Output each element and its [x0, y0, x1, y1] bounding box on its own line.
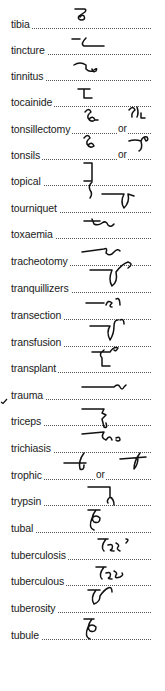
shorthand-outline — [84, 293, 124, 315]
entry-term: tubule — [11, 629, 41, 641]
shorthand-stroke — [90, 262, 131, 286]
shorthand-outline — [82, 216, 116, 232]
dictionary-entry: trypsin — [11, 489, 151, 509]
shorthand-stroke — [129, 137, 148, 151]
shorthand-outline — [94, 563, 132, 583]
margin-check-icon — [0, 396, 8, 404]
entry-term: tonsillectomy — [11, 123, 72, 135]
entry-term: tourniquet — [11, 202, 59, 214]
entry-term: toxaemia — [11, 228, 55, 240]
shorthand-outline — [86, 506, 110, 534]
entry-term: tranquillizers — [11, 282, 71, 294]
shorthand-stroke — [82, 385, 126, 389]
shorthand-stroke — [98, 539, 128, 551]
entry-term: trophic — [11, 469, 44, 481]
shorthand-stroke — [84, 619, 96, 639]
dictionary-entry: tincture — [11, 38, 151, 58]
shorthand-stroke — [84, 163, 92, 181]
shorthand-stroke — [88, 588, 112, 605]
shorthand-stroke — [96, 567, 123, 579]
entry-term: tocainide — [11, 96, 54, 108]
dictionary-entry: tinnitus — [11, 64, 151, 84]
dictionary-entry: transection — [11, 303, 151, 323]
shorthand-outline — [90, 344, 124, 372]
shorthand-outline — [88, 260, 136, 292]
entry-term: trypsin — [11, 495, 43, 507]
shorthand-outline — [83, 107, 101, 129]
entry-term: triceps — [11, 415, 43, 427]
shorthand-stroke — [82, 432, 120, 441]
dictionary-entry: trophicor — [11, 463, 151, 483]
shorthand-outline — [80, 243, 122, 259]
entry-term: trauma — [11, 389, 45, 401]
shorthand-stroke — [84, 219, 114, 226]
dictionary-entry: tubule — [11, 623, 151, 643]
entry-term: trichiasis — [11, 442, 53, 454]
shorthand-stroke — [88, 510, 100, 530]
shorthand-stroke — [82, 249, 120, 255]
shorthand-stroke — [85, 110, 98, 122]
shorthand-outline — [82, 615, 114, 643]
shorthand-stroke — [78, 89, 92, 98]
dictionary-entry: toxaemia — [11, 222, 151, 242]
entry-term: transplant — [11, 362, 58, 374]
dictionary-entry: tuberculous — [11, 569, 151, 589]
leader-dots — [11, 28, 151, 29]
dictionary-entry: transplant — [11, 356, 151, 376]
dictionary-entry: tranquillizers — [11, 276, 151, 296]
shorthand-stroke — [74, 63, 97, 72]
shorthand-stroke — [72, 38, 104, 46]
shorthand-stroke — [64, 453, 86, 470]
shorthand-outline — [86, 180, 136, 212]
shorthand-outline — [76, 86, 94, 102]
shorthand-outline — [72, 6, 92, 26]
dictionary-entry: tonsilsor — [11, 143, 151, 163]
entry-term: tracheotomy — [11, 255, 70, 267]
shorthand-stroke — [88, 487, 114, 505]
shorthand-stroke — [86, 299, 120, 307]
shorthand-outline — [80, 377, 130, 393]
shorthand-outline — [72, 60, 102, 76]
dictionary-entry: tuberculosis — [11, 543, 151, 563]
shorthand-outline — [80, 430, 126, 446]
shorthand-stroke — [120, 453, 146, 469]
dictionary-entry: tuberosity — [11, 596, 151, 616]
shorthand-outline — [70, 35, 106, 49]
shorthand-stroke — [92, 348, 118, 367]
shorthand-outline-alternative — [127, 105, 153, 127]
shorthand-outline — [86, 483, 122, 507]
shorthand-outline-alternative — [118, 451, 150, 475]
shorthand-outline — [82, 133, 102, 155]
dictionary-entry: transfusion — [11, 330, 151, 350]
shorthand-stroke — [82, 409, 107, 428]
dictionary-entry: triceps — [11, 409, 151, 429]
shorthand-stroke — [129, 107, 145, 118]
entry-term: transfusion — [11, 336, 63, 348]
shorthand-stroke — [84, 136, 94, 148]
entry-term: topical — [11, 175, 43, 187]
entry-term: tincture — [11, 44, 47, 56]
entry-term: tibia — [11, 18, 32, 30]
shorthand-outline — [62, 451, 96, 475]
entry-term: tuberosity — [11, 602, 58, 614]
entry-term: tinnitus — [11, 70, 45, 82]
shorthand-outline — [86, 582, 120, 610]
dictionary-entry: tibia — [11, 12, 151, 32]
dictionary-entry: tourniquet — [11, 196, 151, 216]
shorthand-stroke — [75, 9, 86, 20]
shorthand-outline-alternative — [127, 133, 153, 155]
dictionary-entry: tubal — [11, 516, 151, 536]
entry-term: tuberculosis — [11, 549, 68, 561]
entry-term: tonsils — [11, 149, 42, 161]
entry-term: tubal — [11, 522, 35, 534]
alternative-separator: or — [95, 469, 106, 481]
shorthand-stroke — [90, 320, 124, 341]
dictionary-entry: trauma — [11, 383, 151, 403]
shorthand-outline — [88, 318, 128, 346]
entry-term: tuberculous — [11, 575, 66, 587]
entry-term: transection — [11, 309, 63, 321]
shorthand-stroke — [89, 182, 134, 208]
shorthand-outline — [96, 535, 140, 557]
